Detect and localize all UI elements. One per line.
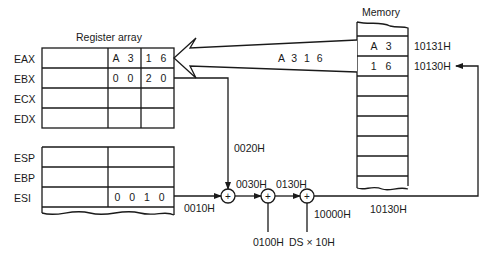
memory-title: Memory — [362, 6, 400, 18]
ebx-low-byte: 2 0 — [141, 72, 174, 84]
memory-address-10130: 10130H — [414, 60, 451, 72]
ebx-value-label: 0020H — [234, 142, 265, 154]
displacement-label: 0100H — [253, 236, 284, 248]
register-ebp-label: EBP — [14, 172, 35, 184]
memory-cell-10131: A 3 — [357, 40, 408, 52]
ebx-high-byte: 0 0 — [108, 72, 141, 84]
eax-high-byte: A 3 — [108, 52, 141, 64]
register-array-title: Register array — [76, 31, 142, 43]
esi-value-label: 0010H — [184, 202, 215, 214]
segment-base-label: 10000H — [314, 208, 351, 220]
register-ebx-label: EBX — [14, 73, 35, 85]
memory-address-10131: 10131H — [414, 40, 451, 52]
register-esp-label: ESP — [14, 152, 35, 164]
physical-address-label: 10130H — [370, 203, 407, 215]
sum2-label: 0130H — [276, 178, 307, 190]
eax-low-byte: 1 6 — [141, 52, 174, 64]
register-eax-label: EAX — [14, 53, 35, 65]
data-transfer-arrow — [174, 38, 357, 78]
register-edx-label: EDX — [14, 113, 36, 125]
plus-icon-1: + — [225, 191, 231, 202]
memory-cell-10130: 1 6 — [357, 60, 408, 72]
plus-icon-2: + — [265, 191, 271, 202]
register-ecx-label: ECX — [14, 93, 36, 105]
wavy-edge-memory — [357, 188, 408, 190]
segment-expr-label: DS × 10H — [289, 236, 335, 248]
sum1-label: 0030H — [236, 178, 267, 190]
esi-value: 0 0 1 0 — [108, 191, 174, 203]
plus-icon-3: + — [304, 191, 310, 202]
transfer-label: A 3 1 6 — [278, 52, 325, 64]
wavy-edge-registers — [42, 212, 174, 215]
register-esi-label: ESI — [14, 192, 31, 204]
